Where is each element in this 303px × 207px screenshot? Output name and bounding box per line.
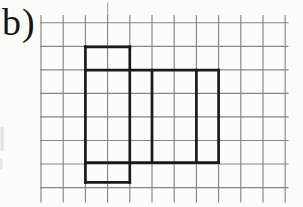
scan-smudge [1, 127, 5, 151]
scan-smudge [0, 158, 3, 170]
worksheet-figure: b) [0, 0, 303, 207]
grid-paper-figure [0, 0, 303, 207]
